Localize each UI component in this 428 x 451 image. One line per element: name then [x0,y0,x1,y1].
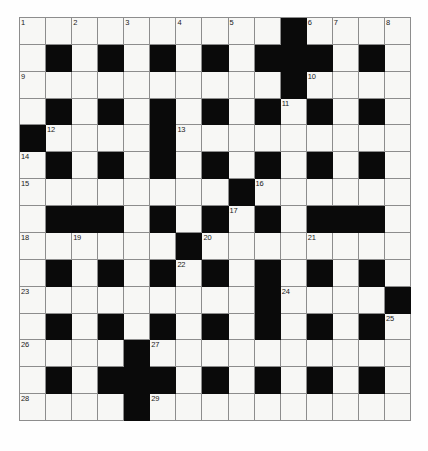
crossword-letter-cell[interactable] [176,206,202,233]
crossword-letter-cell[interactable] [20,99,46,126]
crossword-letter-cell[interactable] [176,314,202,341]
crossword-letter-cell[interactable] [333,340,359,367]
crossword-letter-cell[interactable]: 29 [150,394,176,421]
crossword-letter-cell[interactable]: 2 [72,18,98,45]
crossword-letter-cell[interactable] [359,179,385,206]
crossword-letter-cell[interactable] [333,314,359,341]
crossword-letter-cell[interactable] [333,125,359,152]
crossword-letter-cell[interactable] [359,340,385,367]
crossword-letter-cell[interactable] [72,152,98,179]
crossword-letter-cell[interactable]: 19 [72,233,98,260]
crossword-letter-cell[interactable] [229,125,255,152]
crossword-letter-cell[interactable]: 13 [176,125,202,152]
crossword-letter-cell[interactable] [72,314,98,341]
crossword-letter-cell[interactable] [255,125,281,152]
crossword-letter-cell[interactable] [72,45,98,72]
crossword-letter-cell[interactable] [98,287,124,314]
crossword-letter-cell[interactable] [307,125,333,152]
crossword-letter-cell[interactable] [229,260,255,287]
crossword-letter-cell[interactable] [333,99,359,126]
crossword-letter-cell[interactable] [72,72,98,99]
crossword-letter-cell[interactable] [124,314,150,341]
crossword-letter-cell[interactable]: 14 [20,152,46,179]
crossword-letter-cell[interactable] [202,179,228,206]
crossword-letter-cell[interactable]: 15 [20,179,46,206]
crossword-letter-cell[interactable]: 7 [333,18,359,45]
crossword-letter-cell[interactable] [98,179,124,206]
crossword-letter-cell[interactable]: 4 [176,18,202,45]
crossword-letter-cell[interactable] [229,152,255,179]
crossword-letter-cell[interactable] [281,233,307,260]
crossword-letter-cell[interactable] [255,72,281,99]
crossword-letter-cell[interactable] [124,99,150,126]
crossword-letter-cell[interactable]: 24 [281,287,307,314]
crossword-letter-cell[interactable] [72,287,98,314]
crossword-letter-cell[interactable] [124,233,150,260]
crossword-letter-cell[interactable] [124,45,150,72]
crossword-letter-cell[interactable] [176,367,202,394]
crossword-letter-cell[interactable] [20,45,46,72]
crossword-letter-cell[interactable] [385,394,411,421]
crossword-letter-cell[interactable] [229,287,255,314]
crossword-letter-cell[interactable] [176,152,202,179]
crossword-letter-cell[interactable] [385,206,411,233]
crossword-letter-cell[interactable] [124,287,150,314]
crossword-letter-cell[interactable] [229,233,255,260]
crossword-letter-cell[interactable] [359,394,385,421]
crossword-letter-cell[interactable] [255,233,281,260]
crossword-letter-cell[interactable] [281,206,307,233]
crossword-letter-cell[interactable] [98,72,124,99]
crossword-letter-cell[interactable]: 12 [46,125,72,152]
crossword-letter-cell[interactable] [98,18,124,45]
crossword-letter-cell[interactable] [333,72,359,99]
crossword-letter-cell[interactable] [229,340,255,367]
crossword-letter-cell[interactable] [229,45,255,72]
crossword-letter-cell[interactable] [385,125,411,152]
crossword-letter-cell[interactable] [176,72,202,99]
crossword-letter-cell[interactable] [359,18,385,45]
crossword-letter-cell[interactable] [333,152,359,179]
crossword-letter-cell[interactable] [229,367,255,394]
crossword-letter-cell[interactable] [385,72,411,99]
crossword-letter-cell[interactable] [333,45,359,72]
crossword-letter-cell[interactable] [333,394,359,421]
crossword-letter-cell[interactable] [385,260,411,287]
crossword-letter-cell[interactable]: 11 [281,99,307,126]
crossword-letter-cell[interactable] [281,340,307,367]
crossword-letter-cell[interactable] [229,394,255,421]
crossword-letter-cell[interactable] [307,340,333,367]
crossword-letter-cell[interactable] [202,287,228,314]
crossword-letter-cell[interactable] [281,367,307,394]
crossword-letter-cell[interactable] [359,233,385,260]
crossword-letter-cell[interactable] [255,394,281,421]
crossword-letter-cell[interactable] [333,233,359,260]
crossword-letter-cell[interactable] [385,45,411,72]
crossword-letter-cell[interactable] [46,394,72,421]
crossword-letter-cell[interactable] [359,125,385,152]
crossword-letter-cell[interactable] [202,394,228,421]
crossword-letter-cell[interactable] [20,260,46,287]
crossword-letter-cell[interactable] [46,179,72,206]
crossword-letter-cell[interactable] [307,179,333,206]
crossword-letter-cell[interactable] [281,394,307,421]
crossword-letter-cell[interactable] [124,72,150,99]
crossword-letter-cell[interactable]: 28 [20,394,46,421]
crossword-letter-cell[interactable] [176,179,202,206]
crossword-letter-cell[interactable] [98,233,124,260]
crossword-letter-cell[interactable] [229,72,255,99]
crossword-letter-cell[interactable] [124,260,150,287]
crossword-letter-cell[interactable] [281,314,307,341]
crossword-letter-cell[interactable]: 18 [20,233,46,260]
crossword-letter-cell[interactable] [281,152,307,179]
crossword-letter-cell[interactable] [124,152,150,179]
crossword-letter-cell[interactable]: 16 [255,179,281,206]
crossword-letter-cell[interactable] [176,394,202,421]
crossword-letter-cell[interactable] [229,314,255,341]
crossword-letter-cell[interactable] [333,260,359,287]
crossword-letter-cell[interactable] [124,206,150,233]
crossword-letter-cell[interactable] [333,367,359,394]
crossword-letter-cell[interactable]: 23 [20,287,46,314]
crossword-letter-cell[interactable] [72,260,98,287]
crossword-letter-cell[interactable] [333,287,359,314]
crossword-letter-cell[interactable] [333,179,359,206]
